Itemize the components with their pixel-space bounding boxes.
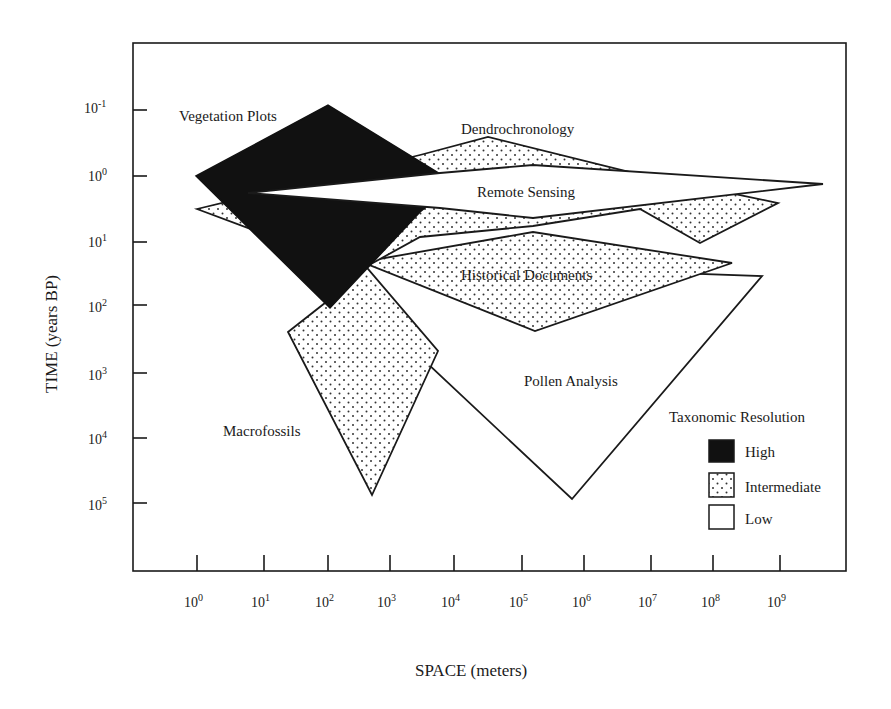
svg-text:100: 100 xyxy=(88,166,107,184)
svg-text:100: 100 xyxy=(184,592,203,610)
svg-text:103: 103 xyxy=(88,365,107,383)
x-axis-title: SPACE (meters) xyxy=(415,661,527,680)
legend-label-low: Low xyxy=(745,511,773,527)
svg-text:101: 101 xyxy=(251,592,270,610)
label-dendrochronology: Dendrochronology xyxy=(461,121,575,137)
svg-text:102: 102 xyxy=(315,592,334,610)
svg-text:10-1: 10-1 xyxy=(84,98,106,116)
space-time-chart: Vegetation Plots Dendrochronology Remote… xyxy=(0,0,891,709)
legend-title: Taxonomic Resolution xyxy=(669,409,806,425)
label-remote-sensing: Remote Sensing xyxy=(477,184,575,200)
svg-text:103: 103 xyxy=(377,592,396,610)
svg-text:104: 104 xyxy=(441,592,460,610)
label-macrofossils: Macrofossils xyxy=(223,423,301,439)
legend-swatch-low xyxy=(709,505,734,529)
label-vegetation-plots: Vegetation Plots xyxy=(179,108,277,124)
y-axis-title: TIME (years BP) xyxy=(42,275,61,393)
svg-text:106: 106 xyxy=(572,592,591,610)
legend-swatch-high xyxy=(709,440,734,462)
legend-label-intermediate: Intermediate xyxy=(745,479,821,495)
svg-text:104: 104 xyxy=(88,429,107,447)
svg-text:107: 107 xyxy=(638,592,657,610)
y-tick-labels: 10-1 100 101 102 103 104 105 xyxy=(84,98,107,513)
svg-text:105: 105 xyxy=(88,495,107,513)
svg-text:105: 105 xyxy=(509,592,528,610)
legend-swatch-intermediate xyxy=(709,473,734,497)
svg-text:101: 101 xyxy=(88,232,107,250)
svg-text:108: 108 xyxy=(701,592,720,610)
x-tick-labels: 100 101 102 103 104 105 106 107 108 109 xyxy=(184,592,786,610)
legend-label-high: High xyxy=(745,444,776,460)
label-historical-documents: Historical Documents xyxy=(461,267,592,283)
label-pollen-analysis: Pollen Analysis xyxy=(524,373,618,389)
svg-text:102: 102 xyxy=(88,297,107,315)
svg-text:109: 109 xyxy=(767,592,786,610)
